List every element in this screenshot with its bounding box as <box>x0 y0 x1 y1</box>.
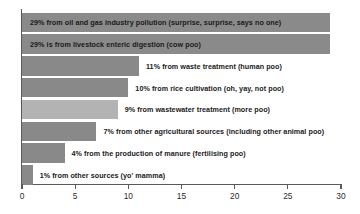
bar-label: 9% from wastewater treatment (more poo) <box>125 105 270 114</box>
x-tick <box>128 184 129 189</box>
bar-row: 10% from rice cultivation (oh, yay, not … <box>22 78 128 98</box>
x-tick <box>340 184 341 189</box>
bar-row: 9% from wastewater treatment (more poo) <box>22 100 118 120</box>
bar-row: 29% is from livestock enteric digestion … <box>22 34 330 54</box>
x-tick-label: 25 <box>283 191 292 201</box>
bar <box>22 165 33 185</box>
x-tick <box>181 184 182 189</box>
bar-label: 11% from waste treatment (human poo) <box>146 61 282 70</box>
x-tick-label: 20 <box>230 191 239 201</box>
bar-label: 1% from other sources (yo' mamma) <box>40 170 166 179</box>
bar-chart: 29% from oil and gas industry pollution … <box>0 0 360 214</box>
bar <box>22 56 139 76</box>
bar-row: 1% from other sources (yo' mamma) <box>22 165 33 185</box>
x-tick-label: 30 <box>336 191 345 201</box>
x-tick <box>21 184 22 189</box>
x-tick <box>234 184 235 189</box>
bar-label: 29% from oil and gas industry pollution … <box>30 18 281 27</box>
bar-label: 4% from the production of manure (fertil… <box>72 149 246 158</box>
plot-area: 29% from oil and gas industry pollution … <box>22 9 341 185</box>
bar <box>22 78 128 98</box>
bar-label: 7% from other agricultural sources (incl… <box>103 127 324 136</box>
x-tick <box>75 184 76 189</box>
x-tick-label: 0 <box>20 191 25 201</box>
bar-row: 29% from oil and gas industry pollution … <box>22 13 330 33</box>
x-tick-label: 10 <box>124 191 133 201</box>
bar <box>22 143 65 163</box>
bar-label: 29% is from livestock enteric digestion … <box>30 40 201 49</box>
bar <box>22 122 96 142</box>
x-tick-label: 15 <box>177 191 186 201</box>
x-tick <box>287 184 288 189</box>
bar-row: 7% from other agricultural sources (incl… <box>22 122 96 142</box>
bar <box>22 100 118 120</box>
bar-row: 11% from waste treatment (human poo) <box>22 56 139 76</box>
bar-label: 10% from rice cultivation (oh, yay, not … <box>135 83 284 92</box>
x-tick-label: 5 <box>73 191 78 201</box>
bar-row: 4% from the production of manure (fertil… <box>22 143 65 163</box>
